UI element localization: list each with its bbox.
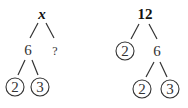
edge <box>131 24 139 39</box>
edge <box>32 60 38 75</box>
tree-root-12: 12 <box>138 6 153 22</box>
edge <box>18 60 25 75</box>
tree-root-x: x <box>37 6 46 22</box>
node-6: 6 <box>153 43 161 59</box>
edge <box>46 23 54 38</box>
edge <box>30 23 38 38</box>
factor-trees-diagram: x 6 ? 2 3 12 2 6 2 3 <box>0 0 188 108</box>
edge <box>149 24 157 39</box>
factor-tree-x: x 6 ? 2 3 <box>6 6 58 96</box>
edge <box>160 62 167 77</box>
prime-3: 3 <box>36 79 44 95</box>
prime-2: 2 <box>121 43 129 59</box>
node-unknown: ? <box>52 44 57 58</box>
node-6: 6 <box>24 42 32 58</box>
edge <box>146 62 154 77</box>
prime-2: 2 <box>138 81 146 97</box>
prime-2: 2 <box>11 79 19 95</box>
prime-3: 3 <box>166 81 174 97</box>
factor-tree-12: 12 2 6 2 3 <box>116 6 179 98</box>
